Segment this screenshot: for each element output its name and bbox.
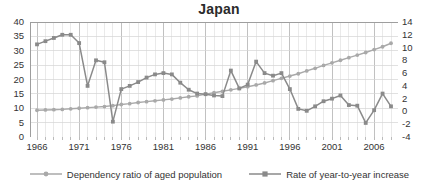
y-right-tick-label: 4: [402, 81, 428, 91]
data-point-marker: [263, 81, 267, 85]
y-right-tick-label: 8: [402, 55, 428, 65]
data-point-marker: [145, 100, 149, 104]
data-point-marker: [381, 92, 385, 96]
y-right-tick-label: 6: [402, 68, 428, 78]
data-point-marker: [296, 72, 300, 76]
x-tick-label: 1991: [228, 142, 268, 152]
x-tick-label: 1976: [101, 142, 141, 152]
legend-marker-square-icon: [248, 169, 282, 179]
data-point-marker: [44, 108, 48, 112]
data-point-marker: [69, 107, 73, 111]
page-title: Japan: [0, 1, 438, 17]
data-point-marker: [229, 69, 233, 73]
data-point-marker: [355, 53, 359, 57]
y-right-tick-label: 10: [402, 43, 428, 53]
y-right-tick-label: 12: [402, 30, 428, 40]
data-point-marker: [52, 108, 56, 112]
data-point-marker: [288, 74, 292, 78]
x-tick-label: 1966: [17, 142, 57, 152]
data-point-marker: [35, 108, 39, 112]
y-left-tick-label: 15: [0, 89, 24, 99]
chart-container: Japan Dependency ratio of aged populatio…: [0, 0, 438, 189]
data-point-marker: [355, 104, 359, 108]
data-point-marker: [254, 83, 258, 87]
data-point-marker: [128, 102, 132, 106]
data-point-marker: [195, 92, 199, 96]
data-point-marker: [288, 87, 292, 91]
data-point-marker: [162, 71, 166, 75]
y-left-tick-label: 0: [0, 132, 24, 142]
y-left-tick-label: 40: [0, 17, 24, 27]
y-right-tick-label: -2: [402, 119, 428, 129]
data-point-marker: [372, 48, 376, 52]
legend-label: Rate of year-to-year increase: [286, 169, 409, 180]
data-point-marker: [60, 108, 64, 112]
data-series-layer: [30, 22, 398, 137]
data-point-marker: [60, 33, 64, 37]
data-point-marker: [389, 104, 393, 108]
data-point-marker: [305, 69, 309, 73]
y-left-tick-label: 35: [0, 31, 24, 41]
data-point-marker: [347, 56, 351, 60]
data-point-marker: [77, 41, 81, 45]
data-point-marker: [69, 33, 73, 37]
data-point-marker: [339, 94, 343, 98]
data-point-marker: [322, 99, 326, 103]
data-point-marker: [313, 104, 317, 108]
x-tick-label: 2006: [354, 142, 394, 152]
data-point-marker: [187, 88, 191, 92]
x-tick-label: 1996: [270, 142, 310, 152]
y-right-tick-label: -4: [402, 132, 428, 142]
data-point-marker: [296, 107, 300, 111]
data-point-marker: [119, 103, 123, 107]
data-point-marker: [128, 84, 132, 88]
chart-legend: Dependency ratio of aged populationRate …: [0, 163, 438, 185]
y-left-tick-label: 5: [0, 118, 24, 128]
legend-item-rate-of-increase[interactable]: Rate of year-to-year increase: [248, 169, 409, 180]
data-point-marker: [119, 87, 123, 91]
data-point-marker: [44, 39, 48, 43]
data-point-marker: [153, 72, 157, 76]
y-left-tick-label: 20: [0, 75, 24, 85]
y-right-tick-label: 0: [402, 106, 428, 116]
y-left-tick-label: 10: [0, 103, 24, 113]
data-point-marker: [237, 87, 241, 91]
data-point-marker: [178, 81, 182, 85]
data-point-marker: [94, 105, 98, 109]
data-point-marker: [136, 101, 140, 105]
data-point-marker: [77, 106, 81, 110]
data-point-marker: [246, 83, 250, 87]
data-point-marker: [364, 51, 368, 55]
data-point-marker: [35, 42, 39, 46]
data-point-marker: [221, 94, 225, 98]
y-right-tick-label: 14: [402, 17, 428, 27]
data-point-marker: [170, 97, 174, 101]
y-left-tick-label: 25: [0, 60, 24, 70]
series-line: [37, 35, 391, 123]
data-point-marker: [52, 36, 56, 40]
data-point-marker: [339, 58, 343, 62]
x-axis-ticks: [30, 137, 398, 141]
data-point-marker: [389, 41, 393, 45]
plot-area: [30, 22, 398, 137]
data-point-marker: [330, 97, 334, 101]
data-point-marker: [271, 74, 275, 78]
data-point-marker: [153, 99, 157, 103]
data-point-marker: [145, 76, 149, 80]
data-point-marker: [212, 94, 216, 98]
data-point-marker: [322, 64, 326, 68]
legend-item-dependency-ratio[interactable]: Dependency ratio of aged population: [29, 169, 222, 180]
data-point-marker: [170, 72, 174, 76]
legend-label: Dependency ratio of aged population: [67, 169, 222, 180]
data-point-marker: [381, 45, 385, 49]
x-tick-label: 1986: [186, 142, 226, 152]
data-point-marker: [372, 108, 376, 112]
x-tick-label: 1981: [143, 142, 183, 152]
data-point-marker: [162, 98, 166, 102]
data-point-marker: [229, 88, 233, 92]
x-tick-label: 2001: [312, 142, 352, 152]
data-point-marker: [305, 109, 309, 113]
data-point-marker: [263, 71, 267, 75]
data-point-marker: [187, 95, 191, 99]
legend-marker-circle-icon: [29, 169, 63, 179]
